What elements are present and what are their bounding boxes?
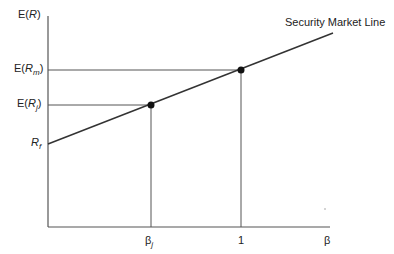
sml-diagram [0,0,394,254]
asset-return-label: E(Rj) [17,97,41,112]
market-return-label: E(Rm) [14,62,43,77]
asset-j-point [148,102,155,109]
asset-beta-label: βj [145,234,153,249]
risk-free-label: Rf [31,136,41,151]
market-point [238,67,245,74]
speck [324,208,325,209]
sml-title: Security Market Line [285,16,385,28]
security-market-line [48,33,333,144]
market-beta-label: 1 [238,234,244,246]
y-axis-label: E(R) [18,8,41,20]
x-axis-label: β [324,234,330,246]
